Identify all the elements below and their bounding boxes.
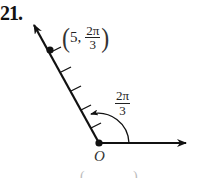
polar-diagram: 21. ( 5, 2π 3 ) 2π 3 O ( ): [0, 0, 200, 178]
theta-fraction: 2π 3: [85, 24, 100, 51]
close-paren: ): [101, 24, 109, 52]
point-coordinates-label: ( 5, 2π 3 ): [62, 24, 109, 51]
angle-label: 2π 3: [114, 86, 131, 118]
open-paren: (: [62, 24, 70, 52]
tick-marks: [51, 47, 101, 128]
cropped-paren-right: ): [133, 169, 138, 178]
origin-label: O: [94, 148, 105, 165]
cropped-paren-left: (: [80, 169, 85, 178]
problem-number: 21.: [0, 2, 22, 25]
radius-value: 5,: [70, 29, 81, 46]
plotted-point: [46, 46, 53, 53]
angle-fraction: 2π 3: [115, 89, 130, 118]
origin-point: [95, 139, 102, 146]
